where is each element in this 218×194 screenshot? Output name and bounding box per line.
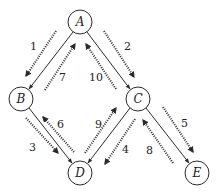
step-arrow-4	[105, 119, 135, 164]
node-c-label: C	[133, 92, 142, 106]
node-e: E	[185, 161, 209, 185]
node-b-label: B	[16, 92, 26, 106]
edge-b-d	[29, 108, 72, 163]
step-label-8: 8	[146, 144, 153, 157]
node-b: B	[9, 87, 33, 111]
step-label-4: 4	[122, 143, 129, 156]
node-a: A	[68, 10, 92, 34]
step-label-2: 2	[124, 40, 131, 53]
step-label-1: 1	[30, 40, 37, 53]
step-arrow-5	[163, 107, 193, 152]
step-label-5: 5	[181, 117, 188, 130]
tree-edges	[29, 32, 189, 163]
step-label-3: 3	[29, 141, 36, 154]
node-a-label: A	[75, 15, 85, 29]
node-d-label: D	[74, 166, 85, 180]
step-label-10: 10	[89, 71, 103, 84]
node-c: C	[126, 87, 150, 111]
traversal-diagram: 1 2 3 4 5 6 7 8 9 10 A B C D E	[0, 0, 218, 194]
traversal-arrows	[26, 31, 193, 164]
step-label-9: 9	[95, 118, 102, 131]
step-arrow-2	[104, 31, 134, 77]
node-e-label: E	[192, 166, 202, 180]
step-arrow-1	[26, 31, 56, 76]
step-label-6: 6	[57, 118, 64, 131]
node-d: D	[68, 161, 92, 185]
step-label-7: 7	[59, 71, 66, 84]
